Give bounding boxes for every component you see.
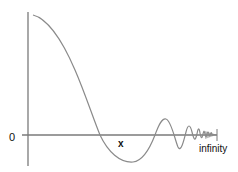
x-marker-label: x [118, 139, 124, 149]
diagram-canvas: 0 x infinity [0, 0, 238, 172]
oscillating-curve [33, 15, 217, 162]
infinity-label: infinity [199, 144, 227, 154]
convergence-arrow [205, 131, 216, 139]
origin-label: 0 [9, 132, 15, 143]
